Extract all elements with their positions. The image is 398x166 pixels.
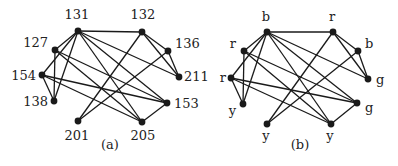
vertex	[330, 29, 337, 36]
vertex	[39, 72, 46, 79]
edge	[42, 75, 142, 122]
vertex	[139, 119, 146, 126]
vertex	[264, 121, 271, 128]
vertex	[328, 121, 335, 128]
edge	[243, 51, 244, 104]
vertex-label: r	[230, 36, 237, 51]
vertex-label: y	[228, 103, 237, 118]
vertex	[264, 29, 271, 36]
edge	[231, 78, 243, 104]
vertex-label: 205	[131, 128, 156, 143]
vertex	[164, 100, 171, 107]
vertex	[176, 74, 183, 81]
vertex-label: 211	[184, 69, 209, 84]
edge	[142, 103, 167, 122]
vertex-label: r	[329, 9, 336, 24]
vertex-label: 127	[23, 35, 48, 50]
vertex	[52, 47, 59, 54]
edge	[78, 31, 142, 32]
vertex	[165, 48, 172, 55]
vertex-label: 153	[174, 96, 199, 111]
graph-canvas: 131132127136154211138153201205 (a) brrbr…	[0, 0, 398, 166]
vertex-label: y	[261, 128, 270, 143]
vertex-label: g	[376, 72, 384, 87]
panel-b-caption: (b)	[291, 137, 309, 152]
vertex	[365, 76, 372, 83]
vertex	[355, 48, 362, 55]
vertex-label: 154	[11, 68, 36, 83]
edge	[142, 32, 179, 77]
vertex-label: 132	[131, 7, 156, 22]
edge	[231, 78, 357, 103]
panel-b-edges	[231, 32, 368, 124]
vertex-label: y	[325, 128, 334, 143]
panel-a-caption: (a)	[101, 137, 119, 152]
vertex-label: g	[365, 100, 373, 115]
edge	[42, 75, 167, 103]
vertex	[139, 29, 146, 36]
panel-b-colored-graph: brrbrgygyy (b)	[220, 9, 385, 152]
panel-a-numbered-graph: 131132127136154211138153201205 (a)	[11, 7, 209, 152]
vertex-label: b	[262, 9, 270, 24]
vertex	[51, 98, 58, 105]
vertex	[75, 28, 82, 35]
vertex	[241, 48, 248, 55]
vertex-label: r	[220, 70, 227, 85]
vertex-label: 136	[175, 36, 200, 51]
vertex-label: 201	[65, 128, 90, 143]
vertex	[75, 118, 82, 125]
panel-a-edges	[42, 31, 179, 122]
edge	[54, 50, 55, 101]
vertex	[240, 101, 247, 108]
graph-figure: 131132127136154211138153201205 (a) brrbr…	[0, 0, 398, 166]
edge	[333, 32, 368, 79]
vertex	[228, 75, 235, 82]
vertex-label: b	[365, 36, 373, 51]
vertex-label: 138	[23, 94, 48, 109]
edge	[331, 103, 357, 124]
vertex-label: 131	[65, 7, 90, 22]
vertex	[354, 100, 361, 107]
